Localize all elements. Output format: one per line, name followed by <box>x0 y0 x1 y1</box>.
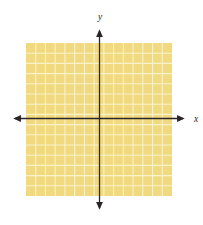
coordinate-plane-svg: x y <box>0 0 203 225</box>
coordinate-plane-figure: x y <box>0 0 203 225</box>
x-axis-label: x <box>193 114 199 124</box>
y-axis-label: y <box>97 12 103 22</box>
